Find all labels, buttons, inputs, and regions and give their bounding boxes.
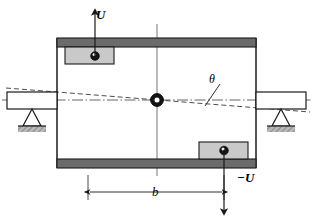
top-thick-bar: [57, 38, 256, 47]
left-pin-support: [7, 92, 57, 132]
velocity-up-label: U: [96, 8, 105, 21]
velocity-down-label: −U: [237, 171, 254, 184]
bottom-thick-bar: [57, 159, 256, 168]
angle-theta-label: θ: [209, 73, 215, 85]
dimension-b-label: b: [152, 185, 159, 198]
upper-slider-block: [65, 47, 114, 64]
center-pivot-hub: [151, 94, 164, 107]
figure-canvas: U −U b θ: [0, 0, 314, 223]
right-pin-support: [256, 92, 306, 132]
theta-leader-line: [205, 84, 220, 106]
